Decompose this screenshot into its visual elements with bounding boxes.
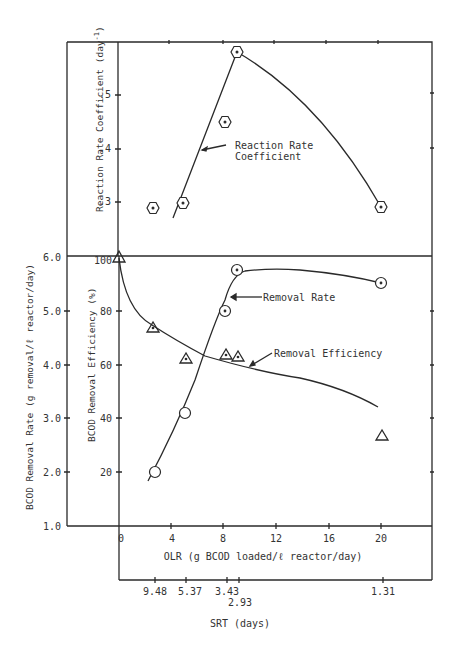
olr-tick-label: 12: [270, 533, 282, 544]
left-tick-label: 6.0: [43, 252, 61, 263]
inner-tick-label: 40: [100, 413, 112, 424]
srt-tick-label: 5.37: [178, 586, 202, 597]
srt-tick-label: 2.93: [228, 597, 252, 608]
left-tick-label: 5.0: [43, 306, 61, 317]
olr-tick-label: 0: [118, 533, 124, 544]
removal-efficiency-annotation: Removal Efficiency: [274, 348, 382, 359]
removal-rate-annotation: Removal Rate: [263, 292, 335, 303]
left-tick-label: 3.0: [43, 413, 61, 424]
olr-tick-label: 4: [169, 533, 175, 544]
upper-tick-label: .4: [99, 143, 111, 154]
left-tick-label: 2.0: [43, 467, 61, 478]
inner-tick-label: 80: [100, 306, 112, 317]
upper-tick-label: .3: [99, 196, 111, 207]
chart-figure: Reaction Rate Coefficient (day-1) .5 .4 …: [0, 0, 454, 656]
removal-efficiency-markers: [113, 251, 388, 440]
reaction-rate-annotation: Coefficient: [235, 151, 301, 162]
upper-tick-label: .5: [99, 89, 111, 100]
srt-tick-label: 3.43: [215, 586, 239, 597]
upper-y-label: Reaction Rate Coefficient (day-1): [93, 26, 105, 212]
inner-tick-label: 20: [100, 467, 112, 478]
srt-tick-label: 9.48: [143, 586, 167, 597]
reaction-rate-annotation: Reaction Rate: [235, 140, 313, 151]
left-tick-label: 1.0: [43, 521, 61, 532]
olr-axis-label: OLR (g BCOD loaded/ℓ reactor/day): [164, 551, 363, 562]
left-tick-label: 4.0: [43, 360, 61, 371]
left-y-label: BCOD Removal Rate (g removal/ℓ reactor/d…: [24, 264, 35, 510]
olr-tick-label: 16: [323, 533, 335, 544]
inner-tick-label: 60: [100, 360, 112, 371]
inner-tick-label: 100: [94, 255, 112, 266]
srt-tick-label: 1.31: [371, 586, 395, 597]
reaction-rate-curve: [173, 52, 381, 218]
inner-y-label: BCOD Removal Efficiency (%): [86, 288, 97, 442]
srt-axis-label: SRT (days): [210, 618, 270, 629]
olr-tick-label: 8: [220, 533, 226, 544]
olr-tick-label: 20: [375, 533, 387, 544]
